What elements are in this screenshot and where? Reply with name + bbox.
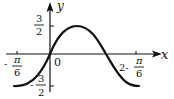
y-axis-label: y (56, 0, 64, 13)
svg-text:6: 6 (136, 68, 142, 79)
svg-text:π: π (13, 54, 21, 65)
function-graph: y x 0 3 2 - 3 2 - π 6 2- π 6 (0, 0, 174, 99)
svg-text:3: 3 (38, 73, 44, 84)
svg-text:2-: 2- (119, 62, 129, 73)
y-label-neg-3-2: - 3 2 (30, 73, 46, 98)
sinusoid-curve (14, 26, 139, 86)
svg-text:2: 2 (38, 87, 44, 98)
svg-text:3: 3 (36, 13, 42, 24)
y-label-3-2: 3 2 (34, 13, 44, 37)
x-label-2-minus-pi-6: 2- π 6 (119, 55, 144, 79)
x-axis-label: x (161, 47, 169, 62)
svg-text:-: - (30, 79, 33, 90)
x-label-neg-pi-6: - π 6 (4, 54, 22, 78)
svg-text:-: - (4, 58, 7, 69)
svg-text:6: 6 (14, 67, 20, 78)
svg-text:π: π (135, 55, 143, 66)
svg-text:2: 2 (36, 26, 42, 37)
origin-label: 0 (54, 56, 61, 69)
